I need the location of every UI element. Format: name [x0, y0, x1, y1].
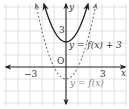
function-graph: y x O −3 3 3 y = f(x) + 3 y = f(x): [0, 0, 129, 109]
curve-label-f: y = f(x): [69, 78, 104, 88]
curve-label-f-plus-3: y = f(x) + 3: [68, 40, 122, 50]
x-axis-label: x: [121, 68, 126, 78]
x-tick-neg3: −3: [24, 69, 38, 79]
y-axis-label: y: [68, 2, 75, 12]
y-tick-3: 3: [59, 25, 65, 35]
grid: [3, 4, 127, 106]
origin-label: O: [57, 56, 64, 66]
